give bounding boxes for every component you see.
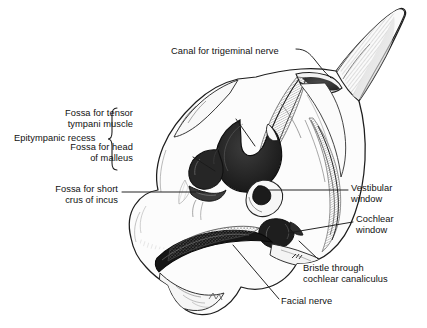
- label-canal-trigeminal-nerve: Canal for trigeminal nerve: [171, 46, 279, 57]
- label-vestibular-window: Vestibular window: [351, 183, 392, 206]
- label-fossa-short-crus-incus: Fossa for short crus of incus: [0, 184, 118, 207]
- label-facial-nerve: Facial nerve: [281, 296, 332, 307]
- label-epitympanic-recess: Epitympanic recess: [14, 133, 96, 144]
- label-bristle-cochlear-canaliculus: Bristle through cochlear canaliculus: [303, 263, 388, 286]
- label-fossa-tensor-tympani: Fossa for tensor tympani muscle: [0, 108, 133, 131]
- label-fossa-head-of-malleus: Fossa for head of malleus: [0, 142, 133, 165]
- label-cochlear-window: Cochlear window: [356, 214, 394, 237]
